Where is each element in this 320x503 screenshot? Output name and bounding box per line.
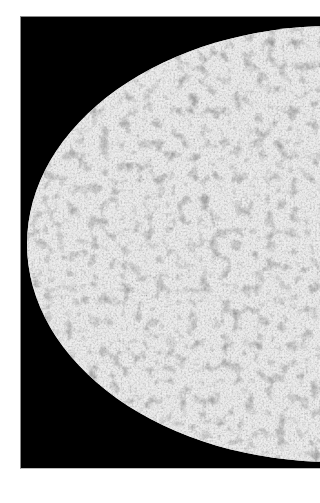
figure-canvas [0, 0, 320, 503]
sky-map-ellipse [21, 17, 320, 469]
sky-map-panel [20, 16, 320, 469]
